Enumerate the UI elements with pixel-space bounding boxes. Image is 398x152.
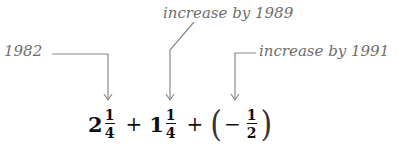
term2-numerator: 1 <box>165 108 177 123</box>
term2-fraction: 1 4 <box>165 108 177 140</box>
term2-whole: 1 <box>149 112 164 137</box>
term3-fraction: 1 2 <box>246 108 258 140</box>
term2-denominator: 4 <box>166 124 176 140</box>
close-paren: ) <box>261 107 273 142</box>
diagram: 1982 increase by 1989 increase by 1991 2… <box>0 0 398 152</box>
term1-whole: 2 <box>88 112 103 137</box>
connector-1982 <box>52 54 108 99</box>
open-paren: ( <box>210 107 222 142</box>
minus-sign: − <box>224 112 241 136</box>
term3-denominator: 2 <box>247 124 257 140</box>
term1-fraction: 1 4 <box>104 108 116 140</box>
term1-denominator: 4 <box>105 124 115 140</box>
equation: 2 1 4 + 1 1 4 + ( − 1 2 ) <box>88 104 272 144</box>
label-increase-1989: increase by 1989 <box>163 6 293 21</box>
term1-numerator: 1 <box>104 108 116 123</box>
label-increase-1991: increase by 1991 <box>259 44 389 59</box>
connector-1989 <box>170 22 194 99</box>
term3-numerator: 1 <box>246 108 258 123</box>
label-1982: 1982 <box>4 44 42 59</box>
plus-operator: + <box>187 112 204 136</box>
connector-1991 <box>235 53 256 99</box>
plus-operator: + <box>125 112 142 136</box>
